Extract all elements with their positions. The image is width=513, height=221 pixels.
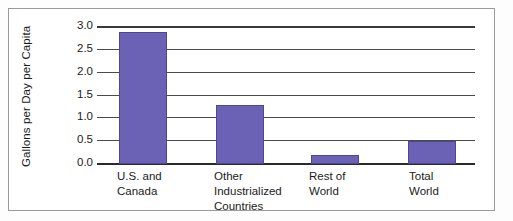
x-category-label: Rest of World <box>309 169 345 199</box>
y-tick-label: 2.0 <box>57 65 93 77</box>
y-tick-label: 0.5 <box>57 133 93 145</box>
x-axis-category-labels: U.S. and CanadaOther Industrialized Coun… <box>97 169 482 221</box>
y-tick-label: 3.0 <box>57 19 93 31</box>
y-tick-label: 2.5 <box>57 42 93 54</box>
bar[interactable] <box>119 32 167 164</box>
y-tick-label: 1.0 <box>57 110 93 122</box>
x-category-label: U.S. and Canada <box>117 169 162 199</box>
bar[interactable] <box>408 141 456 164</box>
chart-figure: Gallons per Day per Capita 0.00.51.01.52… <box>0 0 513 221</box>
y-axis-tick-labels: 0.00.51.01.52.02.53.0 <box>53 27 93 164</box>
y-tick-label: 0.0 <box>57 156 93 168</box>
figure-frame: Gallons per Day per Capita 0.00.51.01.52… <box>8 8 495 211</box>
gridline <box>97 26 475 28</box>
y-tick-label: 1.5 <box>57 88 93 100</box>
plot-area <box>97 27 475 164</box>
y-axis-title: Gallons per Day per Capita <box>20 17 38 167</box>
bar[interactable] <box>311 155 359 164</box>
x-category-label: Other Industrialized Countries <box>214 169 282 214</box>
x-category-label: Total World <box>409 169 439 199</box>
bar[interactable] <box>216 105 264 164</box>
